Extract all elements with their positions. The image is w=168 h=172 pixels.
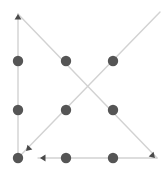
n-top-right[interactable] [108, 56, 118, 66]
n-bottom-center[interactable] [61, 153, 71, 163]
arrow-left-bottom-row [40, 155, 46, 162]
edge-diagonal-rising [18, 12, 160, 158]
edges-layer [18, 12, 160, 158]
n-top-center[interactable] [61, 56, 71, 66]
n-middle-center[interactable] [61, 105, 71, 115]
n-top-left[interactable] [13, 56, 23, 66]
graph-svg [0, 0, 168, 172]
n-bottom-left[interactable] [13, 153, 23, 163]
n-bottom-right[interactable] [108, 153, 118, 163]
diagram-canvas [0, 0, 168, 172]
n-middle-left[interactable] [13, 105, 23, 115]
arrow-bottom-right [149, 152, 158, 161]
n-middle-right[interactable] [108, 105, 118, 115]
arrow-into-bottom-left [24, 145, 33, 154]
